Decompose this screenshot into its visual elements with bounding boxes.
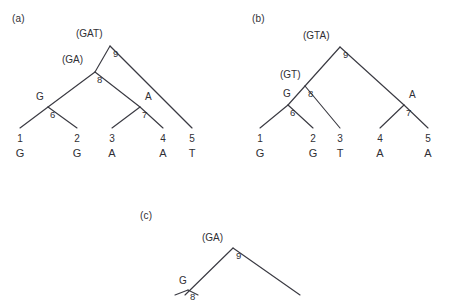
tree-branch	[112, 107, 140, 128]
state-set-a-9: (GAT)	[76, 29, 102, 39]
state-set-a-8: (GA)	[62, 55, 83, 65]
node-number-b-9: 9	[343, 50, 348, 60]
panel-label-a: (a)	[12, 14, 25, 24]
node-number-a-9: 9	[113, 49, 118, 59]
tree-branch	[380, 105, 404, 128]
leaf-number-b-5: 5	[425, 134, 431, 144]
tree-branch	[233, 248, 300, 295]
ancestral-state-b-7: A	[409, 90, 416, 100]
leaf-number-b-1: 1	[257, 134, 263, 144]
ancestral-state-a-7: A	[145, 92, 152, 102]
leaf-state-b-2: G	[309, 148, 318, 159]
tree-branch	[185, 248, 233, 295]
leaf-number-a-1: 1	[17, 134, 23, 144]
ancestral-state-c-8: G	[179, 276, 187, 286]
panel-label-b: (b)	[252, 14, 265, 24]
leaf-state-a-3: A	[108, 148, 115, 159]
state-set-c-9: (GA)	[202, 233, 223, 243]
leaf-state-b-5: A	[424, 148, 431, 159]
leaf-number-a-5: 5	[189, 134, 195, 144]
leaf-number-a-2: 2	[74, 134, 80, 144]
leaf-number-b-4: 4	[377, 134, 383, 144]
tree-branch	[260, 105, 288, 128]
leaf-state-b-4: A	[376, 148, 383, 159]
leaf-state-a-4: A	[159, 148, 166, 159]
leaf-number-b-3: 3	[337, 134, 343, 144]
leaf-number-a-4: 4	[160, 134, 166, 144]
node-number-a-8: 8	[97, 75, 102, 85]
tree-branch	[48, 72, 95, 107]
leaf-state-b-1: G	[256, 148, 265, 159]
state-set-b-8: (GT)	[280, 70, 301, 80]
panel-label-c: (c)	[140, 211, 152, 221]
tree-branch	[305, 47, 340, 86]
leaf-state-a-5: T	[189, 148, 196, 159]
tree-branch	[20, 107, 48, 128]
tree-branch	[95, 46, 110, 72]
leaf-state-a-2: G	[73, 148, 82, 159]
ancestral-state-a-6: G	[36, 92, 44, 102]
tree-branch	[340, 47, 404, 105]
leaf-number-b-2: 2	[310, 134, 316, 144]
state-set-b-9: (GTA)	[303, 31, 329, 41]
node-number-b-7: 7	[406, 108, 411, 118]
node-number-a-7: 7	[142, 110, 147, 120]
leaf-state-b-3: T	[337, 148, 344, 159]
ancestral-state-b-8: G	[283, 89, 291, 99]
node-number-a-6: 6	[50, 110, 55, 120]
node-number-c-9: 9	[236, 251, 241, 261]
node-number-b-8: 8	[308, 89, 313, 99]
tree-branch	[110, 46, 192, 128]
leaf-number-a-3: 3	[109, 134, 115, 144]
node-number-b-6: 6	[290, 108, 295, 118]
leaf-state-a-1: G	[16, 148, 25, 159]
node-number-c-8: 8	[190, 292, 195, 302]
